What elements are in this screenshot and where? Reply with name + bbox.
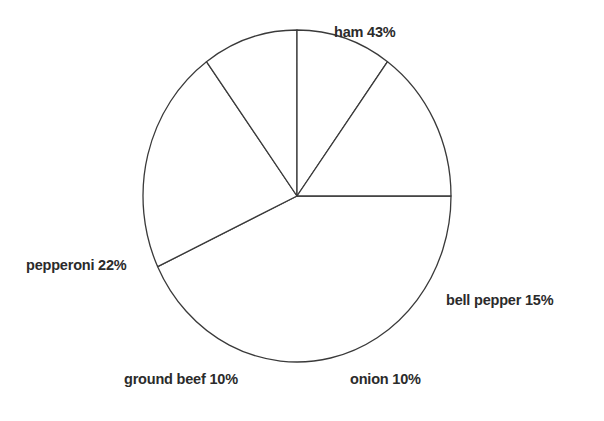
- slice-label-onion: onion 10%: [350, 372, 421, 387]
- pie-slices-group: [143, 30, 451, 362]
- pie-chart-graphic: [0, 0, 604, 421]
- pie-chart: ham 43% pepperoni 22% bell pepper 15% gr…: [0, 0, 604, 421]
- slice-label-pepperoni: pepperoni 22%: [26, 258, 127, 273]
- slice-label-ground-beef: ground beef 10%: [124, 372, 238, 387]
- slice-label-ham: ham 43%: [334, 25, 395, 40]
- slice-label-bell-pepper: bell pepper 15%: [446, 293, 553, 308]
